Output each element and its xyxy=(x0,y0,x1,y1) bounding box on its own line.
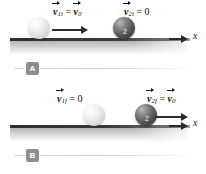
label-v2f: v2f = v0 xyxy=(147,93,176,105)
label-v1i: v1i = v0 xyxy=(53,6,82,18)
vector-symbol-v2i: v xyxy=(124,6,128,17)
subscript-v1f: 1f xyxy=(61,97,66,105)
x-axis-label: x xyxy=(193,30,197,41)
subscript-v2f: 2f xyxy=(151,97,156,105)
x-axis-arrowhead-icon xyxy=(181,122,188,130)
operator-v2i: = xyxy=(136,6,142,17)
operator-v2f: = xyxy=(159,93,165,104)
value-v1f: 0 xyxy=(78,93,83,104)
label-v1f: v1f = 0 xyxy=(57,93,83,105)
velocity-arrowhead-icon xyxy=(81,26,88,34)
ball-1-light xyxy=(28,17,50,39)
ball-2-dark: 2 xyxy=(135,104,157,126)
subscript-v0-b: 0 xyxy=(172,97,176,105)
subscript-v2i: 2i xyxy=(128,10,133,18)
velocity-arrow-ball-2 xyxy=(155,112,188,122)
velocity-arrowhead-icon xyxy=(181,113,188,121)
ground-shadow xyxy=(10,41,188,55)
x-axis-arrow xyxy=(169,33,191,45)
ball-2-number: 2 xyxy=(114,20,136,42)
panel-divider xyxy=(14,68,194,69)
ball-1-number xyxy=(29,20,51,42)
operator-v1f: = xyxy=(69,93,75,104)
vector-symbol-v0-b: v xyxy=(168,93,172,104)
label-v2i: v2i = 0 xyxy=(124,6,150,18)
ball-1-light xyxy=(83,104,105,126)
panel-before-collision: v1i = v0 v2i = 0 x 2 A xyxy=(0,0,206,87)
vector-symbol-v0-a: v xyxy=(74,6,78,17)
ball-2-dark: 2 xyxy=(113,17,135,39)
panel-badge-a: A xyxy=(26,62,39,75)
ground-shadow xyxy=(10,128,188,142)
value-v2i: 0 xyxy=(145,6,150,17)
vector-symbol-v1f: v xyxy=(57,93,61,104)
x-axis-arrowhead-icon xyxy=(181,35,188,43)
panel-after-collision: v1f = 0 v2f = v0 x 2 B xyxy=(0,87,206,174)
subscript-v0-a: 0 xyxy=(78,10,82,18)
vector-symbol-v1i: v xyxy=(53,6,57,17)
vector-symbol-v2f: v xyxy=(147,93,151,104)
ball-1-number xyxy=(84,107,106,129)
velocity-arrow-shaft xyxy=(155,116,182,118)
x-axis-label: x xyxy=(193,117,197,128)
subscript-v1i: 1i xyxy=(57,10,62,18)
operator-v1i: = xyxy=(65,6,71,17)
velocity-arrow-ball-1 xyxy=(52,25,88,35)
panel-divider xyxy=(14,155,194,156)
velocity-arrow-shaft xyxy=(52,29,82,31)
panel-badge-b: B xyxy=(26,149,39,162)
